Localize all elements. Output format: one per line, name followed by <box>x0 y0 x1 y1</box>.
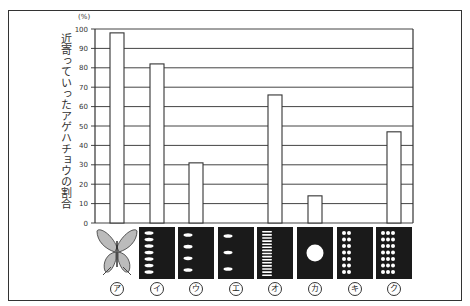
y-tick-label: 50 <box>79 123 88 131</box>
category-label: イ <box>150 282 164 296</box>
category-label: ク <box>387 282 401 296</box>
pattern-card-dots-3col <box>376 227 412 279</box>
y-tick-label: 90 <box>79 45 88 53</box>
bar-2 <box>150 64 164 223</box>
category-label: ウ <box>189 282 203 296</box>
pattern-card-stripes <box>257 227 293 279</box>
y-tick-label: 100 <box>75 26 88 34</box>
y-tick-label: 40 <box>79 142 88 150</box>
bar-6 <box>308 196 322 223</box>
category-label: キ <box>348 282 362 296</box>
category-label: オ <box>268 282 282 296</box>
y-tick-label: 10 <box>79 200 88 208</box>
bar-1 <box>110 33 124 223</box>
bar-chart: 0102030405060708090100 <box>0 0 470 306</box>
category-label: エ <box>229 282 243 296</box>
y-tick-label: 60 <box>79 103 88 111</box>
y-tick-label: 0 <box>84 220 88 228</box>
bar-5 <box>268 95 282 223</box>
pattern-card-7-dashes <box>139 227 175 279</box>
bar-3 <box>189 163 203 223</box>
category-label: カ <box>308 282 322 296</box>
bar-8 <box>387 132 401 223</box>
pattern-card-circle <box>297 227 333 279</box>
y-tick-label: 30 <box>79 161 88 169</box>
y-tick-label: 80 <box>79 64 88 72</box>
butterfly-icon <box>97 230 137 275</box>
pattern-card-3-dashes <box>218 227 254 279</box>
category-label: ア <box>110 282 124 296</box>
pattern-card-4-dashes <box>178 227 214 279</box>
y-tick-label: 70 <box>79 84 88 92</box>
pattern-card-dots-2col <box>337 227 373 279</box>
y-tick-label: 20 <box>79 181 88 189</box>
